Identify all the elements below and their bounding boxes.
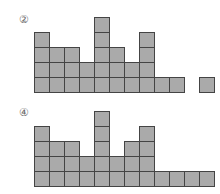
block-cell: [64, 141, 80, 157]
block-cell: [139, 47, 155, 63]
block-cell: [64, 77, 80, 93]
block-cell: [169, 171, 185, 187]
panel-4: ④: [0, 97, 220, 194]
block-cell: [94, 141, 110, 157]
block-cell: [139, 62, 155, 78]
block-cell: [34, 171, 50, 187]
block-cell: [94, 126, 110, 142]
block-cell: [139, 32, 155, 48]
block-cell: [199, 77, 215, 93]
block-cell: [49, 156, 65, 172]
block-cell: [124, 62, 140, 78]
block-cell: [124, 171, 140, 187]
block-cell: [79, 171, 95, 187]
block-cell: [124, 141, 140, 157]
block-cell: [124, 156, 140, 172]
block-cell: [79, 156, 95, 172]
block-cell: [94, 17, 110, 33]
block-cell: [34, 126, 50, 142]
block-cell: [109, 156, 125, 172]
block-cell: [49, 62, 65, 78]
panel-label: ②: [19, 14, 29, 25]
block-cell: [64, 47, 80, 63]
block-cell: [34, 47, 50, 63]
block-cell: [109, 77, 125, 93]
block-cell: [139, 141, 155, 157]
block-cell: [49, 171, 65, 187]
block-cell: [139, 77, 155, 93]
block-cell: [139, 171, 155, 187]
block-cell: [94, 171, 110, 187]
block-cell: [94, 111, 110, 127]
block-cell: [109, 47, 125, 63]
block-cell: [79, 62, 95, 78]
block-cell: [139, 156, 155, 172]
block-cell: [154, 77, 170, 93]
block-cell: [94, 47, 110, 63]
panel-label: ④: [19, 107, 29, 118]
block-cell: [94, 156, 110, 172]
block-cell: [34, 32, 50, 48]
block-cell: [34, 62, 50, 78]
block-cell: [109, 62, 125, 78]
block-cell: [124, 77, 140, 93]
block-cell: [34, 77, 50, 93]
block-cell: [184, 171, 200, 187]
block-cell: [94, 62, 110, 78]
block-cell: [109, 171, 125, 187]
block-cell: [34, 141, 50, 157]
block-cell: [49, 141, 65, 157]
block-cell: [139, 126, 155, 142]
block-cell: [64, 171, 80, 187]
block-cell: [64, 156, 80, 172]
block-cell: [94, 77, 110, 93]
block-cell: [199, 171, 215, 187]
block-cell: [94, 32, 110, 48]
block-cell: [79, 77, 95, 93]
block-cell: [34, 156, 50, 172]
panel-2: ②: [0, 0, 220, 97]
block-cell: [169, 77, 185, 93]
block-cell: [64, 62, 80, 78]
block-cell: [49, 47, 65, 63]
block-cell: [154, 171, 170, 187]
block-cell: [49, 77, 65, 93]
